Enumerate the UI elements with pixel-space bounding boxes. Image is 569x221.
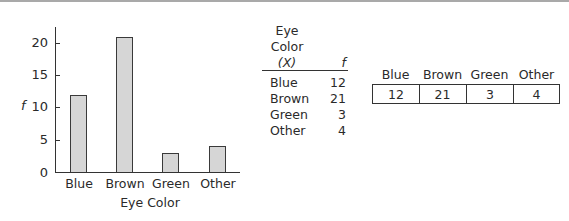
header-line: (X) <box>262 55 312 71</box>
row-label: Other <box>270 123 306 138</box>
y-tick-20 <box>55 43 60 44</box>
value-cell: 21 <box>419 84 467 104</box>
x-axis-line <box>55 172 240 173</box>
y-tick-5 <box>55 140 60 141</box>
header-rule <box>262 70 348 71</box>
bar-blue <box>70 95 87 172</box>
value-cell: 12 <box>372 84 420 104</box>
table-header-x: Eye Color (X) <box>262 23 312 71</box>
top-border-line <box>0 0 569 2</box>
table-header-f: f <box>330 55 346 71</box>
row-value: 3 <box>338 107 346 123</box>
value-cell: 4 <box>513 84 560 104</box>
x-axis-title: Eye Color <box>100 196 200 210</box>
x-tick-label: Other <box>188 177 248 191</box>
row-label: Green <box>270 107 308 122</box>
column-header: Green <box>466 68 513 82</box>
y-axis-line <box>55 27 56 173</box>
y-tick-label: 15 <box>26 68 48 82</box>
row-value: 4 <box>338 123 346 139</box>
column-header: Other <box>513 68 560 82</box>
y-tick-label: 20 <box>26 36 48 50</box>
table-row: Blue 12 <box>270 75 348 91</box>
row-value: 21 <box>330 91 346 107</box>
bar-brown <box>116 37 133 172</box>
bar-green <box>162 153 179 172</box>
column-header: Brown <box>419 68 466 82</box>
y-axis-label: f <box>21 98 26 113</box>
column-header: Blue <box>372 68 419 82</box>
y-tick-10 <box>55 107 60 108</box>
value-cell: 3 <box>466 84 514 104</box>
bar-other <box>209 146 226 172</box>
table-row: Brown 21 <box>270 91 348 107</box>
table-row: Green 3 <box>270 107 348 123</box>
row-label: Blue <box>270 75 298 90</box>
y-tick-label: 5 <box>26 133 48 147</box>
header-line: Eye <box>262 23 312 39</box>
y-tick-label: 10 <box>26 100 48 114</box>
y-tick-15 <box>55 75 60 76</box>
header-line: Color <box>262 39 312 55</box>
row-value: 12 <box>330 75 346 91</box>
row-label: Brown <box>270 91 309 106</box>
y-tick-label: 0 <box>26 166 48 180</box>
table-row: Other 4 <box>270 123 348 139</box>
